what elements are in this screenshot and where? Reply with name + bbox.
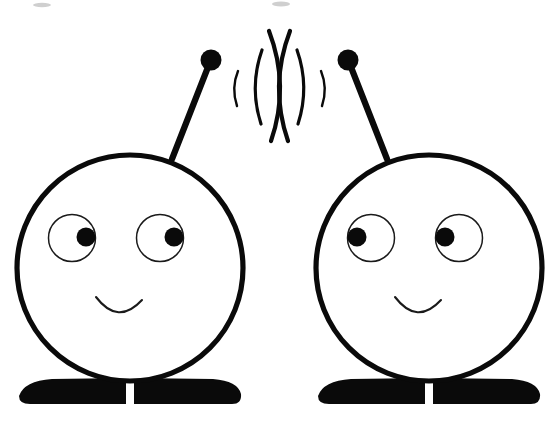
left-character-pupil-right (165, 228, 184, 247)
speck-top-left (33, 3, 51, 7)
right-character-pupil-left (348, 228, 367, 247)
right-character-pupil-right (436, 228, 455, 247)
speck-top-center (272, 2, 290, 7)
left-character-pupil-left (77, 228, 96, 247)
two-characters-scene (0, 0, 559, 443)
right-character-antenna-knob (338, 50, 359, 71)
right-character-head (316, 155, 542, 381)
left-character-head (17, 155, 243, 381)
drawing-canvas (0, 0, 559, 443)
left-character-antenna-knob (201, 50, 222, 71)
